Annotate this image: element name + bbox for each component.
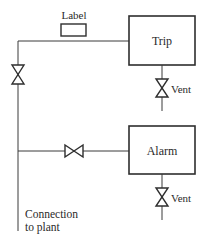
piping-diagram: Label Trip Vent Alarm Vent Connection to… [0,0,209,243]
alarm-label: Alarm [147,144,178,158]
alarm-vent-valve-icon [156,188,168,206]
connection-label-line1: Connection [25,208,78,220]
connection-label-line2: to plant [25,221,61,234]
label-tag-text: Label [61,9,86,21]
trip-label: Trip [152,34,172,48]
trip-vent-label: Vent [171,83,191,95]
alarm-vent-label: Vent [171,192,191,204]
trip-vent-valve-icon [156,79,168,97]
label-tag-box [61,24,86,36]
main-isolation-valve-icon [12,65,24,84]
alarm-isolation-valve-icon [65,145,83,157]
